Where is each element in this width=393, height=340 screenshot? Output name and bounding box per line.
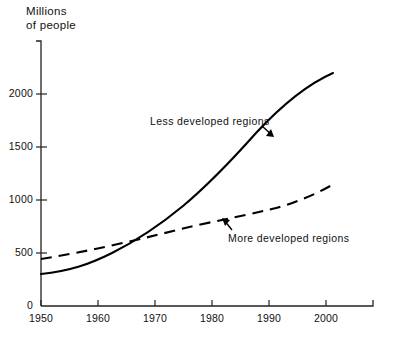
- plot-area: [0, 0, 393, 340]
- x-axis-line: [41, 300, 373, 306]
- series-label-more-developed: More developed regions: [228, 232, 349, 244]
- y-tick-label-1000: 1000: [0, 193, 33, 205]
- chart-figure: Millionsof people: [0, 0, 393, 340]
- x-tick-label-1950: 1950: [21, 312, 61, 324]
- series-label-less-developed: Less developed regions: [150, 115, 270, 127]
- y-tick-label-1500: 1500: [0, 140, 33, 152]
- y-tick-label-2000: 2000: [0, 87, 33, 99]
- x-tick-label-1980: 1980: [192, 312, 232, 324]
- x-tick-label-2000: 2000: [306, 312, 346, 324]
- annotation-arrow-less-developed: [262, 126, 274, 137]
- x-tick-label-1990: 1990: [249, 312, 289, 324]
- x-tick-label-1970: 1970: [135, 312, 175, 324]
- x-axis-ticks: [41, 300, 326, 306]
- series-line-more-developed: [41, 185, 332, 259]
- y-tick-label-0: 0: [0, 299, 33, 311]
- y-axis-line: [36, 41, 41, 306]
- x-tick-label-1960: 1960: [78, 312, 118, 324]
- y-tick-label-500: 500: [0, 246, 33, 258]
- annotation-arrow-more-developed: [222, 218, 232, 230]
